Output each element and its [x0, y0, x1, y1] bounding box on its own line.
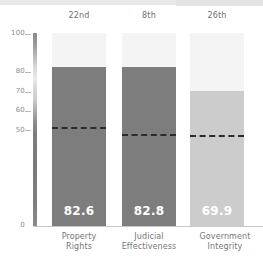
category-label-3-line1: Government — [186, 232, 263, 242]
rank-label-1: 22nd — [52, 11, 106, 20]
ytick-label-80: 80 — [3, 67, 25, 75]
ytick-label-100: 100 — [3, 29, 25, 37]
bar-value-label-1: 82.6 — [52, 204, 106, 218]
x-axis-baseline — [33, 226, 263, 227]
reference-line-3 — [190, 135, 244, 137]
ytick-mark-60 — [25, 111, 31, 112]
reference-line-1 — [52, 127, 106, 129]
reference-line-2 — [122, 134, 176, 136]
category-label-1: Property Rights — [40, 232, 118, 252]
category-label-3: Government Integrity — [186, 232, 263, 252]
rank-label-3: 26th — [190, 11, 244, 20]
category-label-2: Judicial Effectiveness — [110, 232, 188, 252]
bar-government-integrity[interactable]: 69.9 — [190, 91, 244, 226]
ytick-label-70: 70 — [3, 87, 25, 95]
bar-property-rights[interactable]: 82.6 — [52, 67, 106, 226]
category-label-1-line2: Rights — [40, 242, 118, 252]
category-label-2-line2: Effectiveness — [110, 242, 188, 252]
ytick-label-60: 60 — [3, 106, 25, 114]
bar-chart: 100 80 70 60 50 0 82.6 22nd Property Rig… — [0, 0, 263, 261]
category-label-1-line1: Property — [40, 232, 118, 242]
plot-area: 100 80 70 60 50 0 82.6 22nd Property Rig… — [0, 0, 263, 261]
ytick-label-50: 50 — [3, 126, 25, 134]
ytick-mark-50 — [25, 130, 31, 131]
ytick-mark-100 — [25, 34, 31, 35]
ytick-mark-80 — [25, 72, 31, 73]
ytick-label-0: 0 — [3, 221, 25, 229]
y-axis-rail — [33, 33, 37, 226]
bar-judicial-effectiveness[interactable]: 82.8 — [122, 67, 176, 226]
bar-value-label-3: 69.9 — [190, 204, 244, 218]
bar-value-label-2: 82.8 — [122, 204, 176, 218]
rank-label-2: 8th — [122, 11, 176, 20]
category-label-3-line2: Integrity — [186, 242, 263, 252]
ytick-mark-70 — [25, 92, 31, 93]
category-label-2-line1: Judicial — [110, 232, 188, 242]
